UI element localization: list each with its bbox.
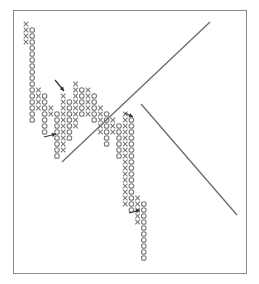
column-13-o bbox=[104, 112, 109, 147]
column-14-x bbox=[111, 118, 116, 135]
column-8-x bbox=[73, 82, 78, 129]
column-12-x bbox=[98, 106, 103, 135]
column-4-x bbox=[49, 106, 54, 117]
column-9-o bbox=[80, 88, 85, 117]
bearish-resistance-line bbox=[141, 104, 237, 215]
column-3-o bbox=[42, 94, 47, 135]
arrow-1-icon bbox=[55, 80, 64, 91]
column-17-o bbox=[129, 118, 134, 213]
column-19-o bbox=[142, 202, 147, 261]
column-16-x bbox=[123, 112, 128, 207]
column-0-x bbox=[24, 22, 29, 45]
column-6-x bbox=[61, 94, 66, 153]
column-2-x bbox=[36, 88, 41, 111]
column-15-o bbox=[117, 124, 122, 159]
point-and-figure-chart bbox=[0, 0, 259, 284]
column-11-o bbox=[92, 94, 97, 123]
column-1-o bbox=[30, 28, 35, 123]
column-7-o bbox=[67, 100, 72, 141]
column-5-o bbox=[55, 112, 60, 159]
bullish-support-line bbox=[62, 22, 210, 162]
column-10-x bbox=[86, 88, 91, 117]
